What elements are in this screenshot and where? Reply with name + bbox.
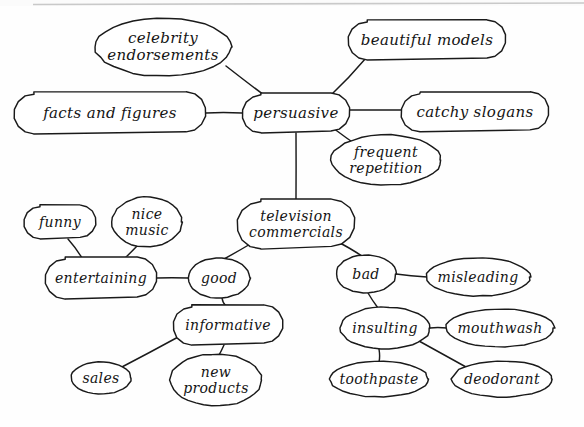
node-mouthwash[interactable]: mouthwash <box>446 309 555 347</box>
node-label-frequent_repetition-line1: frequent <box>353 144 418 160</box>
node-label-new_products-line1: new <box>201 364 231 380</box>
node-toothpaste[interactable]: toothpaste <box>329 361 428 397</box>
node-label-sales: sales <box>82 370 119 386</box>
node-label-informative: informative <box>185 317 271 333</box>
node-label-entertaining: entertaining <box>55 270 147 286</box>
node-label-good: good <box>201 270 237 286</box>
node-misleading[interactable]: misleading <box>426 258 530 296</box>
node-label-celebrity_endorsements-line2: endorsements <box>107 46 219 64</box>
node-facts_and_figures[interactable]: facts and figures <box>14 92 205 134</box>
node-nice_music[interactable]: nicemusic <box>112 197 183 247</box>
node-label-catchy_slogans: catchy slogans <box>416 103 533 121</box>
node-label-misleading: misleading <box>438 269 519 285</box>
node-label-facts_and_figures: facts and figures <box>42 104 177 122</box>
node-frequent_repetition[interactable]: frequentrepetition <box>331 135 441 185</box>
node-celebrity_endorsements[interactable]: celebrityendorsements <box>95 18 232 76</box>
node-label-persuasive: persuasive <box>253 104 338 122</box>
node-label-television_commercials-line2: commercials <box>249 224 343 240</box>
node-insulting[interactable]: insulting <box>340 307 430 349</box>
node-label-beautiful_models: beautiful models <box>361 31 494 49</box>
node-label-funny: funny <box>38 214 82 230</box>
node-label-nice_music-line2: music <box>125 222 169 238</box>
mindmap-canvas: celebrityendorsementsbeautiful modelsfac… <box>0 0 584 427</box>
node-informative[interactable]: informative <box>174 305 283 345</box>
node-persuasive[interactable]: persuasive <box>243 93 350 133</box>
node-deodorant[interactable]: deodorant <box>451 361 552 397</box>
mindmap-svg: celebrityendorsementsbeautiful modelsfac… <box>0 0 584 427</box>
node-new_products[interactable]: newproducts <box>170 354 262 406</box>
edge-line <box>379 349 380 362</box>
node-good[interactable]: good <box>188 258 250 298</box>
node-label-toothpaste: toothpaste <box>339 371 418 387</box>
node-label-frequent_repetition-line2: repetition <box>349 160 422 176</box>
node-label-nice_music-line1: nice <box>131 206 162 222</box>
node-beautiful_models[interactable]: beautiful models <box>348 20 505 60</box>
node-label-bad: bad <box>352 266 379 282</box>
node-catchy_slogans[interactable]: catchy slogans <box>401 92 548 132</box>
node-sales[interactable]: sales <box>71 362 131 394</box>
edge-insulting-to-toothpaste <box>379 349 380 362</box>
node-funny[interactable]: funny <box>24 205 96 239</box>
node-label-deodorant: deodorant <box>464 371 540 387</box>
node-entertaining[interactable]: entertaining <box>45 257 156 299</box>
node-label-new_products-line2: products <box>183 380 249 396</box>
node-label-television_commercials-line1: television <box>260 208 332 224</box>
node-label-celebrity_endorsements-line1: celebrity <box>128 29 198 47</box>
node-label-insulting: insulting <box>352 320 417 336</box>
node-television_commercials[interactable]: televisioncommercials <box>237 199 354 249</box>
node-bad[interactable]: bad <box>337 255 397 293</box>
node-label-mouthwash: mouthwash <box>457 320 542 336</box>
